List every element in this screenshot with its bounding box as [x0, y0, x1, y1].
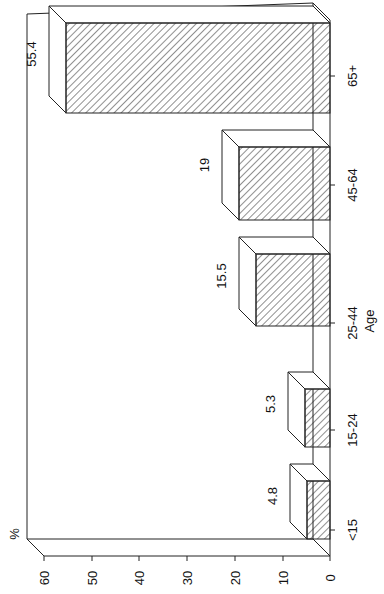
ytick-10: 10 [276, 571, 291, 585]
value-label-15-24: 5.3 [263, 395, 278, 413]
ytick-20: 20 [228, 571, 243, 585]
ytick-40: 40 [132, 571, 147, 585]
category-label-15-24: 15-24 [345, 413, 360, 446]
chart-svg: 60 50 40 30 20 10 0 % [0, 0, 384, 594]
category-labels: <15 15-24 25-44 45-64 65+ [345, 65, 360, 541]
value-axis-labels: 60 50 40 30 20 10 0 [37, 571, 338, 585]
value-label-lt15: 4.8 [265, 487, 280, 505]
value-label-65plus: 55.4 [24, 41, 39, 66]
category-label-45-64: 45-64 [345, 168, 360, 201]
ytick-0: 0 [323, 574, 338, 581]
category-axis-ticks [330, 76, 335, 530]
bar-45-64 [222, 130, 330, 220]
bar-lt15 [290, 464, 330, 539]
y-axis-label: % [7, 528, 22, 540]
bar-65plus [49, 6, 330, 113]
category-label-25-44: 25-44 [345, 306, 360, 339]
category-label-65plus: 65+ [345, 65, 360, 87]
category-label-lt15: <15 [345, 519, 360, 541]
ytick-30: 30 [180, 571, 195, 585]
ytick-60: 60 [37, 571, 52, 585]
value-axis-ticks [44, 556, 330, 561]
bar-25-44 [239, 237, 330, 326]
value-label-45-64: 19 [197, 158, 212, 172]
value-label-25-44: 15.5 [214, 263, 229, 288]
bar-15-24 [288, 372, 330, 447]
ytick-50: 50 [85, 571, 100, 585]
x-axis-label: Age [362, 309, 377, 332]
